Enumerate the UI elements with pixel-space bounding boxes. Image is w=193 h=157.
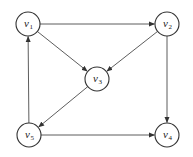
- node-subscript: 2: [169, 23, 173, 31]
- node-subscript: 4: [169, 134, 173, 142]
- node-subscript: 5: [31, 134, 35, 142]
- node-v5: v5: [17, 123, 41, 147]
- node-subscript: 1: [30, 23, 34, 31]
- node-label: v: [25, 128, 30, 140]
- node-v3: v3: [85, 67, 109, 91]
- node-v1: v1: [16, 12, 40, 36]
- node-v4: v4: [155, 123, 179, 147]
- node-subscript: 3: [99, 78, 103, 86]
- edge-v2-v3: [107, 31, 158, 71]
- edge-v3-v5: [39, 87, 88, 127]
- node-label: v: [163, 17, 168, 29]
- graph-canvas: v1v2v3v4v5: [0, 0, 193, 157]
- node-label: v: [93, 72, 98, 84]
- edge-v1-v3: [37, 31, 87, 71]
- node-label: v: [24, 17, 29, 29]
- node-v2: v2: [155, 12, 179, 36]
- node-label: v: [163, 128, 168, 140]
- directed-graph: v1v2v3v4v5: [0, 0, 193, 157]
- edge-v5-v1: [28, 36, 29, 123]
- nodes-layer: v1v2v3v4v5: [16, 12, 179, 147]
